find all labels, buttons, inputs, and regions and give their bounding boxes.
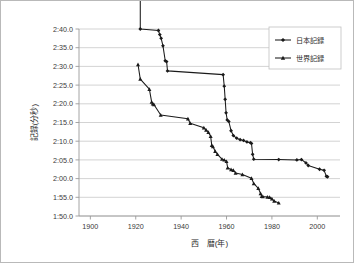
data-point-marker — [245, 140, 249, 144]
data-point-marker — [223, 97, 227, 101]
data-point-marker — [251, 152, 255, 156]
x-tick-label: 1940 — [173, 222, 189, 231]
data-point-marker — [252, 181, 256, 185]
y-tick-group: 1:50.01:55.02:00.02:05.02:10.02:15.02:20… — [53, 25, 79, 221]
y-tick-label: 2:25.0 — [53, 81, 73, 90]
y-axis-title: 記録(分秒) — [29, 104, 39, 142]
x-tick-label: 1980 — [264, 222, 280, 231]
data-point-marker — [226, 166, 230, 170]
data-point-marker — [213, 149, 217, 153]
data-point-marker — [209, 134, 213, 138]
y-tick-label: 1:50.0 — [53, 212, 73, 221]
y-tick-label: 2:35.0 — [53, 43, 73, 52]
chart-figure: 190019201940196019802000 1:50.01:55.02:0… — [0, 0, 354, 263]
x-tick-label: 1920 — [128, 222, 144, 231]
data-point-marker — [158, 33, 162, 37]
x-tick-label: 1900 — [82, 222, 98, 231]
data-point-marker — [229, 129, 233, 133]
data-point-marker — [221, 73, 225, 77]
x-tick-label: 2000 — [309, 222, 325, 231]
y-tick-label: 2:15.0 — [53, 118, 73, 127]
data-point-marker — [277, 158, 281, 162]
data-point-marker — [295, 158, 299, 162]
y-tick-label: 1:55.0 — [53, 193, 73, 202]
y-tick-label: 2:10.0 — [53, 137, 73, 146]
y-tick-label: 2:30.0 — [53, 62, 73, 71]
data-point-marker — [224, 111, 228, 115]
data-point-marker — [242, 139, 246, 143]
y-tick-label: 2:40.0 — [53, 25, 73, 34]
chart-canvas: 190019201940196019802000 1:50.01:55.02:0… — [1, 1, 354, 263]
data-point-marker — [318, 167, 322, 171]
data-point-marker — [166, 69, 170, 73]
data-point-marker — [159, 36, 163, 40]
y-tick-label: 2:05.0 — [53, 156, 73, 165]
x-tick-group: 190019201940196019802000 — [82, 216, 325, 231]
y-tick-label: 2:00.0 — [53, 174, 73, 183]
y-tick-label: 2:20.0 — [53, 99, 73, 108]
data-point-marker — [138, 77, 142, 81]
legend-item-label: 日本記録 — [296, 36, 324, 45]
data-point-marker — [136, 63, 140, 67]
data-series — [136, 63, 281, 205]
data-point-marker — [138, 27, 142, 31]
data-point-marker — [252, 157, 256, 161]
legend-item-label: 世界記録 — [296, 54, 324, 63]
x-axis-title: 西 暦(年) — [191, 238, 229, 248]
data-point-marker — [322, 168, 326, 172]
data-point-marker — [188, 121, 192, 125]
chart-legend: 日本記録世界記録 — [269, 27, 341, 69]
data-point-marker — [161, 44, 165, 48]
x-tick-label: 1960 — [219, 222, 235, 231]
